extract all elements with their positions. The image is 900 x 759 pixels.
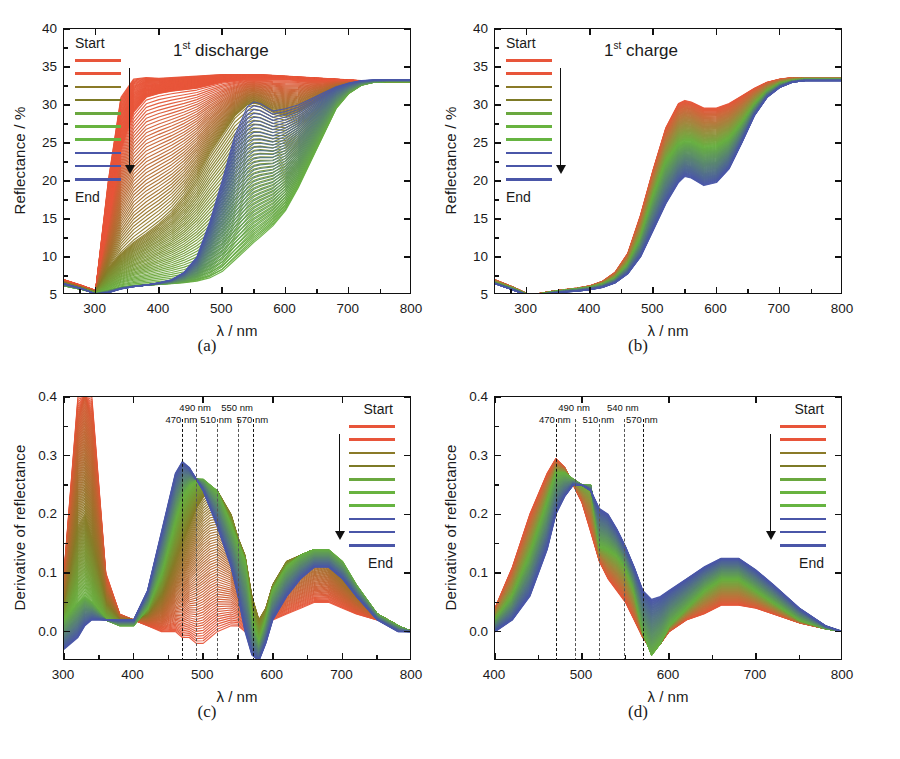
y-tick — [495, 514, 501, 516]
legend-color-swatch — [780, 491, 826, 494]
x-tick-label: 700 — [744, 667, 767, 682]
legend-color-swatch — [780, 531, 826, 534]
x-tick-label: 600 — [657, 667, 680, 682]
x-tick — [755, 653, 757, 659]
legend-swatch-row — [780, 460, 826, 473]
annotation-label-570-nm: 570 nm — [626, 414, 658, 425]
legend-swatch-row — [780, 499, 826, 512]
legend-direction-arrow — [766, 434, 776, 540]
y-axis-label-d: Derivative of reflectance — [442, 366, 459, 690]
annotation-line-490-nm — [575, 419, 576, 660]
x-minor-tick — [799, 655, 801, 659]
x-minor-tick — [625, 655, 627, 659]
legend-swatch-row — [780, 486, 826, 499]
x-tick-label: 800 — [831, 667, 854, 682]
x-tick-top — [755, 397, 757, 403]
annotation-line-470-nm — [556, 419, 557, 660]
legend-start-label: Start — [780, 402, 826, 420]
legend-end-label: End — [780, 552, 826, 570]
legend-color-swatch — [780, 452, 826, 455]
y-tick-right — [835, 631, 841, 633]
arrow-shaft — [770, 434, 771, 532]
y-minor-tick — [495, 543, 499, 545]
annotation-label-540-nm: 540 nm — [607, 402, 639, 413]
legend-swatch-row — [780, 433, 826, 446]
legend-color-swatch — [780, 438, 826, 441]
legend-swatch-row — [780, 473, 826, 486]
annotation-label-510-nm: 510 nm — [583, 414, 615, 425]
y-tick — [495, 631, 501, 633]
annotation-label-490-nm: 490 nm — [558, 402, 590, 413]
legend-swatch-row — [780, 526, 826, 539]
legend-color-swatch — [780, 478, 826, 481]
legend-swatch-row — [780, 539, 826, 552]
panel-d: 470 nm490 nm510 nm540 nm570 nm0.00.10.20… — [0, 0, 900, 759]
y-tick-right — [835, 514, 841, 516]
legend-color-swatch — [780, 504, 826, 507]
x-tick — [668, 653, 670, 659]
x-axis-label-d: λ / nm — [494, 688, 842, 705]
x-tick — [581, 653, 583, 659]
y-tick — [495, 455, 501, 457]
y-minor-tick — [495, 426, 499, 428]
annotation-label-470-nm: 470 nm — [539, 414, 571, 425]
legend-swatch-row — [780, 420, 826, 433]
legend-swatches — [780, 420, 826, 552]
x-tick-label: 400 — [483, 667, 506, 682]
x-tick-label: 500 — [570, 667, 593, 682]
y-tick — [495, 572, 501, 574]
x-minor-tick — [538, 655, 540, 659]
x-tick-top — [668, 397, 670, 403]
legend-color-swatch — [780, 465, 826, 468]
legend-color-swatch — [780, 425, 826, 428]
y-minor-tick — [495, 602, 499, 604]
panel-caption-d: (d) — [608, 702, 668, 722]
x-tick-top — [494, 397, 496, 403]
y-tick-right — [835, 455, 841, 457]
arrow-head — [766, 531, 776, 540]
annotation-line-570-nm — [643, 419, 644, 660]
legend-swatch-row — [780, 446, 826, 459]
legend-d: StartEnd — [780, 402, 826, 570]
x-minor-tick — [712, 655, 714, 659]
legend-color-swatch — [780, 518, 826, 521]
y-tick — [495, 396, 501, 398]
annotation-line-540-nm — [624, 419, 625, 660]
legend-swatch-row — [780, 512, 826, 525]
y-minor-tick — [495, 484, 499, 486]
annotation-line-510-nm — [599, 419, 600, 660]
x-tick — [494, 653, 496, 659]
figure-root: 510152025303540300400500600700800Reflect… — [0, 0, 900, 759]
legend-color-swatch — [780, 544, 826, 547]
y-tick-right — [835, 396, 841, 398]
y-tick-right — [835, 572, 841, 574]
